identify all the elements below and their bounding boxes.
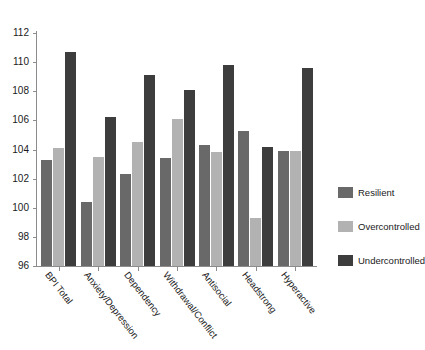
y-axis-tick-mark xyxy=(33,33,37,34)
bar-group xyxy=(120,33,155,266)
y-axis-tick-label: 108 xyxy=(3,86,37,96)
legend-swatch xyxy=(338,221,353,232)
bar-overcontrolled xyxy=(132,142,143,266)
bar-resilient xyxy=(199,145,210,266)
bar-undercontrolled xyxy=(223,65,234,266)
bar-overcontrolled xyxy=(211,152,222,266)
y-axis-tick-label: 96 xyxy=(3,261,37,271)
x-axis-tick-label: Hyperactive xyxy=(279,270,318,316)
y-axis-tick-label: 110 xyxy=(3,57,37,67)
x-axis-tick-mark xyxy=(98,267,99,271)
x-axis-tick-label: Antisocial xyxy=(201,270,234,308)
x-axis-tick-label: BPI Total xyxy=(43,270,74,306)
x-axis-tick-mark xyxy=(138,267,139,271)
y-axis-tick-label: 106 xyxy=(3,115,37,125)
y-axis-tick-mark xyxy=(33,120,37,121)
bar-resilient xyxy=(278,151,289,266)
plot-area: 1121101081061041021009896 xyxy=(37,33,313,266)
bar-undercontrolled xyxy=(262,147,273,266)
y-axis-tick-mark xyxy=(33,266,37,267)
legend-label: Undercontrolled xyxy=(358,255,425,266)
x-axis-tick-mark xyxy=(59,267,60,271)
bar-overcontrolled xyxy=(250,218,261,266)
x-axis-tick-mark xyxy=(216,267,217,271)
x-axis-tick-label: Dependency xyxy=(122,270,163,318)
y-axis-tick-mark xyxy=(33,62,37,63)
bar-overcontrolled xyxy=(290,151,301,266)
bar-resilient xyxy=(41,160,52,266)
x-axis-tick-mark xyxy=(295,267,296,271)
x-axis-tick-mark xyxy=(256,267,257,271)
bar-overcontrolled xyxy=(53,148,64,266)
y-axis-tick-label: 102 xyxy=(3,174,37,184)
y-axis-tick-label: 112 xyxy=(3,28,37,38)
bar-undercontrolled xyxy=(105,117,116,266)
bar-undercontrolled xyxy=(302,68,313,266)
bar-resilient xyxy=(160,158,171,266)
legend-label: Resilient xyxy=(358,187,394,198)
y-axis-tick-mark xyxy=(33,150,37,151)
bar-resilient xyxy=(238,131,249,266)
bar-resilient xyxy=(81,202,92,266)
bar-group xyxy=(41,33,76,266)
chart-legend: ResilientOvercontrolledUndercontrolled xyxy=(338,186,421,288)
bar-group xyxy=(199,33,234,266)
y-axis-tick-mark xyxy=(33,208,37,209)
bar-group xyxy=(160,33,195,266)
bar-group xyxy=(238,33,273,266)
bar-overcontrolled xyxy=(172,119,183,266)
y-axis-tick-label: 98 xyxy=(3,232,37,242)
legend-swatch xyxy=(338,187,353,198)
y-axis-tick-mark xyxy=(33,237,37,238)
legend-swatch xyxy=(338,255,353,266)
bar-group xyxy=(278,33,313,266)
y-axis-tick-label: 104 xyxy=(3,145,37,155)
bar-undercontrolled xyxy=(65,52,76,266)
y-axis-tick-mark xyxy=(33,179,37,180)
legend-item: Undercontrolled xyxy=(338,254,421,267)
legend-item: Resilient xyxy=(338,186,421,199)
x-axis-tick-mark xyxy=(177,267,178,271)
legend-item: Overcontrolled xyxy=(338,220,421,233)
bar-group xyxy=(81,33,116,266)
bar-overcontrolled xyxy=(93,157,104,266)
bar-resilient xyxy=(120,174,131,266)
x-axis-tick-label: Headstrong xyxy=(240,270,278,315)
legend-label: Overcontrolled xyxy=(358,221,420,232)
bar-undercontrolled xyxy=(184,90,195,266)
y-axis-tick-mark xyxy=(33,91,37,92)
y-axis-tick-label: 100 xyxy=(3,203,37,213)
bar-undercontrolled xyxy=(144,75,155,266)
